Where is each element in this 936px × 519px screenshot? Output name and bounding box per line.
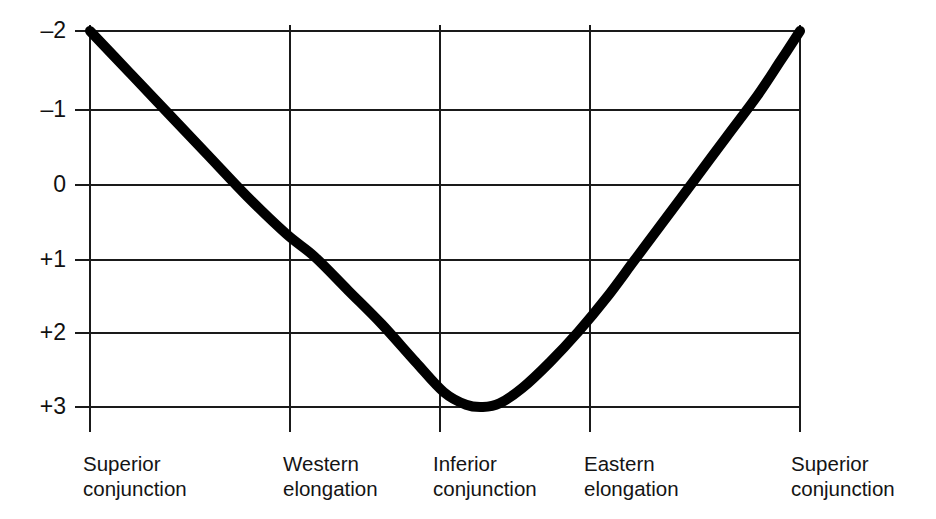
xtick-label-line1: Western <box>283 452 359 475</box>
ytick-label-zero: 0 <box>8 173 66 196</box>
magnitude-curve <box>90 31 800 407</box>
vertical-gridlines <box>90 25 800 432</box>
xtick-label-line1: Eastern <box>584 452 655 475</box>
xtick-label-inferior-conjunction: Inferior conjunction <box>433 451 537 501</box>
xtick-label-line2: conjunction <box>791 476 895 501</box>
ytick-label-plus-3: +3 <box>8 395 66 418</box>
xtick-label-line1: Superior <box>83 452 161 475</box>
xtick-label-line2: conjunction <box>433 476 537 501</box>
xtick-label-eastern-elongation: Eastern elongation <box>584 451 679 501</box>
ytick-label-plus-1: +1 <box>8 248 66 271</box>
xtick-label-line2: elongation <box>283 476 378 501</box>
xtick-label-western-elongation: Western elongation <box>283 451 378 501</box>
chart-plot-area <box>0 0 936 519</box>
xtick-label-line2: conjunction <box>83 476 187 501</box>
chart-figure: –2 –1 0 +1 +2 +3 Superior conjunction We… <box>0 0 936 519</box>
horizontal-gridlines <box>75 31 800 407</box>
xtick-label-line2: elongation <box>584 476 679 501</box>
ytick-label-plus-2: +2 <box>8 321 66 344</box>
xtick-label-line1: Inferior <box>433 452 497 475</box>
xtick-label-superior-conjunction-right: Superior conjunction <box>791 451 895 501</box>
xtick-label-superior-conjunction-left: Superior conjunction <box>83 451 187 501</box>
ytick-label-minus-2: –2 <box>8 19 66 42</box>
ytick-label-minus-1: –1 <box>8 98 66 121</box>
xtick-label-line1: Superior <box>791 452 869 475</box>
